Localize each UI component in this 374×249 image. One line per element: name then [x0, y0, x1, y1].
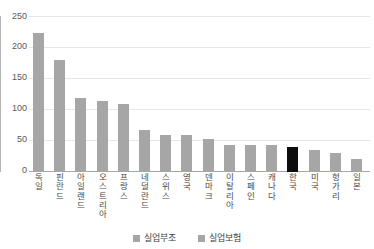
legend-label-0: 실업부조: [144, 234, 176, 243]
bar-독일[interactable]: [33, 33, 44, 172]
x-axis-label-스페인: 스페인: [245, 173, 256, 201]
bar-스페인[interactable]: [245, 145, 256, 172]
bar-영국[interactable]: [181, 135, 192, 172]
y-axis-labels: 250 200 150 100 50 0: [0, 0, 27, 249]
x-axis-label-영국: 영국: [181, 173, 192, 192]
x-axis-label-이탈리아: 이탈리아: [224, 173, 235, 210]
bar-일본[interactable]: [351, 159, 362, 172]
x-axis-label-덴마크: 덴마크: [203, 173, 214, 201]
x-axis-label-캐나다: 캐나다: [266, 173, 277, 201]
legend-item-1[interactable]: 실업보험: [198, 234, 241, 243]
y-axis-tick-0: 0: [1, 166, 27, 175]
x-axis-label-아일랜드: 아일랜드: [75, 173, 86, 210]
y-axis-tick-50: 50: [1, 135, 27, 144]
x-axis-label-헝가리: 헝가리: [330, 173, 341, 201]
legend-label-1: 실업보험: [209, 234, 241, 243]
bar-캐나다[interactable]: [266, 145, 277, 172]
y-axis-tick-150: 150: [1, 73, 27, 82]
bar-스위스[interactable]: [160, 135, 171, 172]
x-axis-label-스위스: 스위스: [160, 173, 171, 201]
bar-한국[interactable]: [287, 147, 298, 172]
bar-덴마크[interactable]: [203, 139, 214, 173]
legend-item-0[interactable]: 실업부조: [133, 234, 176, 243]
x-axis-label-프랑스: 프랑스: [118, 173, 129, 201]
bar-핀란드[interactable]: [54, 60, 65, 172]
x-axis-label-네덜란드: 네덜란드: [139, 173, 150, 210]
chart-legend: 실업부조 실업보험: [0, 231, 374, 245]
x-axis-label-독일: 독일: [33, 173, 44, 192]
bar-오스트리아[interactable]: [97, 101, 108, 172]
bar-프랑스[interactable]: [118, 104, 129, 172]
chart-title-remnant: [30, 0, 330, 5]
x-axis-label-한국: 한국: [287, 173, 298, 192]
legend-swatch-icon-1: [198, 235, 205, 242]
y-axis-line: [0, 16, 1, 172]
bar-chart: 250 200 150 100 50 0 독일핀란드아일랜드오스트리아프랑스네덜…: [0, 0, 374, 249]
y-axis-tick-100: 100: [1, 104, 27, 113]
bar-이탈리아[interactable]: [224, 145, 235, 172]
legend-swatch-icon-0: [133, 235, 140, 242]
x-axis-labels: 독일핀란드아일랜드오스트리아프랑스네덜란드스위스영국덴마크이탈리아스페인캐나다한…: [30, 173, 370, 229]
bar-series: [30, 16, 370, 172]
y-axis-tick-250: 250: [1, 12, 27, 21]
x-axis-label-미국: 미국: [309, 173, 320, 192]
bar-헝가리[interactable]: [330, 153, 341, 172]
bar-미국[interactable]: [309, 150, 320, 172]
bar-네덜란드[interactable]: [139, 130, 150, 172]
bar-아일랜드[interactable]: [75, 98, 86, 172]
x-axis-label-오스트리아: 오스트리아: [97, 173, 108, 219]
x-axis-label-일본: 일본: [351, 173, 362, 192]
y-axis-tick-200: 200: [1, 42, 27, 51]
x-axis-label-핀란드: 핀란드: [54, 173, 65, 201]
